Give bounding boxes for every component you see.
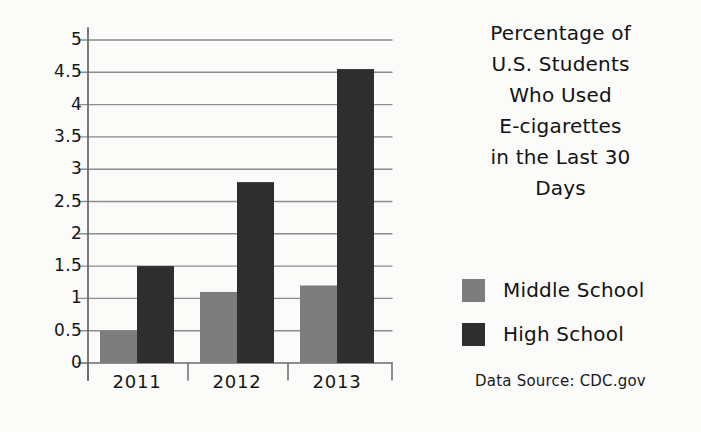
x-axis-tick-labels: 201120122013 <box>0 0 420 432</box>
legend-color-swatch <box>462 323 485 346</box>
chart-title-line: Days <box>420 173 701 204</box>
chart-title-line: Who Used <box>420 80 701 111</box>
plot-area: 00.511.522.533.544.55 201120122013 <box>0 0 420 432</box>
legend-item-middle-school[interactable]: Middle School <box>420 268 701 312</box>
x-axis-label-2011: 2011 <box>92 372 182 392</box>
chart-title-line: in the Last 30 <box>420 142 701 173</box>
x-axis-label-2012: 2012 <box>192 372 282 392</box>
legend-item-label: Middle School <box>503 279 644 301</box>
x-axis-label-2013: 2013 <box>292 372 382 392</box>
chart-legend: Middle SchoolHigh School <box>420 268 701 356</box>
chart-title-line: U.S. Students <box>420 49 701 80</box>
chart-title: Percentage ofU.S. StudentsWho UsedE-ciga… <box>420 18 701 204</box>
legend-item-high-school[interactable]: High School <box>420 312 701 356</box>
chart-side-panel: Percentage ofU.S. StudentsWho UsedE-ciga… <box>420 0 701 432</box>
data-source-note: Data Source: CDC.gov <box>420 372 701 390</box>
chart-title-line: E-cigarettes <box>420 111 701 142</box>
legend-item-label: High School <box>503 323 624 345</box>
chart-figure: 00.511.522.533.544.55 201120122013 Perce… <box>0 0 701 432</box>
chart-title-line: Percentage of <box>420 18 701 49</box>
legend-color-swatch <box>462 279 485 302</box>
